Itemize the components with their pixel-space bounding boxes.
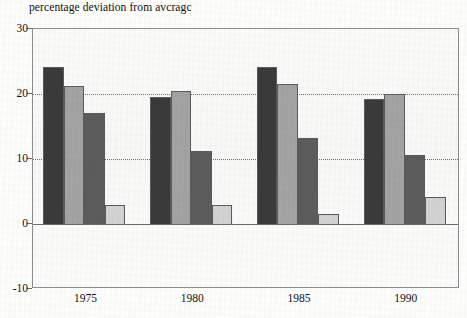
bar — [318, 214, 339, 224]
bar — [84, 113, 105, 224]
plot-area — [32, 28, 459, 288]
y-axis-labels: 3020100-10 — [0, 28, 28, 288]
x-axis-labels: 1975198019851990 — [32, 292, 459, 312]
plot-inner — [33, 29, 458, 287]
bar — [43, 67, 64, 224]
bar — [150, 97, 171, 224]
bar — [171, 91, 192, 224]
y-axis-tick-label: 30 — [17, 22, 29, 34]
chart-page: percentage deviation from avcragc 302010… — [0, 0, 467, 318]
y-axis-tick-label: 10 — [17, 152, 29, 164]
bar — [257, 67, 278, 224]
bar — [405, 155, 426, 224]
bar — [298, 138, 319, 224]
zero-axis-line — [33, 224, 458, 225]
y-axis-tick-label: 20 — [17, 87, 29, 99]
x-axis-tick-label: 1980 — [181, 292, 204, 304]
bar — [384, 94, 405, 224]
x-axis-tick-label: 1975 — [74, 292, 97, 304]
y-axis-tick-label: 0 — [22, 217, 28, 229]
bar — [364, 99, 385, 224]
bar — [105, 205, 126, 225]
bar — [212, 205, 233, 225]
x-axis-tick-label: 1990 — [394, 292, 417, 304]
bar — [64, 86, 85, 224]
bar — [191, 151, 212, 224]
chart-title: percentage deviation from avcragc — [29, 1, 192, 13]
bar — [277, 84, 298, 224]
x-axis-tick-label: 1985 — [287, 292, 310, 304]
bar — [425, 197, 446, 224]
y-axis-tick-label: -10 — [13, 282, 28, 294]
